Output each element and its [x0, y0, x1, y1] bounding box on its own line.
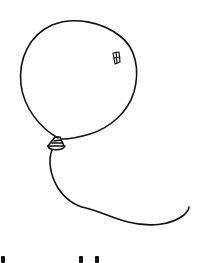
cut-off-text-fragment	[95, 256, 99, 263]
balloon-drawing	[0, 0, 205, 263]
balloon-body	[21, 21, 137, 139]
cut-off-text-fragment	[1, 256, 5, 263]
highlight-icon	[113, 52, 120, 64]
cut-off-text-fragment	[79, 256, 83, 263]
balloon-string	[50, 150, 189, 225]
